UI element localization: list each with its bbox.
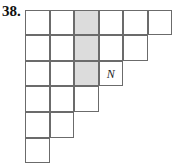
grid-cell	[25, 10, 50, 36]
grid-cell	[74, 10, 99, 36]
grid-cell	[50, 35, 75, 61]
grid-cell	[50, 10, 75, 36]
grid-cell	[25, 61, 50, 87]
grid-cell	[25, 86, 50, 112]
grid-cell	[50, 112, 75, 138]
grid-cell	[74, 86, 99, 112]
problem-number: 38.	[2, 3, 21, 20]
grid-cell	[25, 112, 50, 138]
grid-cell	[148, 10, 173, 36]
grid-cell: N	[99, 61, 124, 87]
grid-cell	[99, 35, 124, 61]
grid-cell	[123, 35, 148, 61]
grid-cell	[123, 10, 148, 36]
grid-cell	[74, 61, 99, 87]
grid-cell	[25, 35, 50, 61]
grid-cell	[99, 10, 124, 36]
grid-cell	[50, 86, 75, 112]
cell-label: N	[100, 66, 123, 81]
grid-cell	[25, 138, 50, 164]
grid-cell	[50, 61, 75, 87]
grid-cell	[74, 35, 99, 61]
